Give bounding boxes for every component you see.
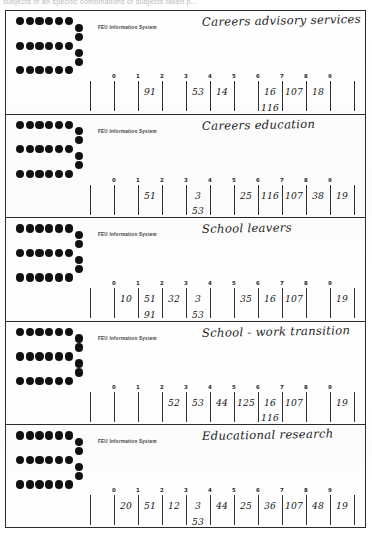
handwritten-value: 53 xyxy=(192,206,204,215)
scale-divider xyxy=(90,288,91,318)
handwritten-value: 116 xyxy=(261,413,279,422)
handwritten-value: 19 xyxy=(336,191,348,200)
scale-tick-label: 5 xyxy=(232,177,236,183)
scale-cell[interactable]: 36 xyxy=(264,496,276,526)
scale-divider xyxy=(234,288,235,318)
logo-dot xyxy=(35,170,43,178)
logo-dot xyxy=(75,136,83,144)
scale-cell[interactable]: 32 xyxy=(168,289,180,319)
logo-dot xyxy=(65,456,73,464)
scale-tick-label: 8 xyxy=(304,73,308,79)
scale-cell[interactable]: 19 xyxy=(336,496,348,526)
feu-dotted-e-logo xyxy=(16,121,84,183)
scale-cell[interactable]: 353 xyxy=(192,186,204,216)
handwritten-value: 25 xyxy=(240,501,252,510)
logo-dot xyxy=(45,66,53,74)
scale-tick-label: 2 xyxy=(160,280,164,286)
scale-cell[interactable]: 107 xyxy=(285,82,303,112)
scale-cell[interactable]: 107 xyxy=(285,393,303,423)
handwritten-value: 14 xyxy=(216,87,228,96)
logo-dot xyxy=(45,145,53,153)
handwritten-value: 25 xyxy=(240,191,252,200)
scale-cell[interactable]: 20 xyxy=(120,496,132,526)
scale-cell[interactable]: 51 xyxy=(144,186,156,216)
logo-dot xyxy=(35,17,43,25)
scale-cell[interactable]: 38 xyxy=(312,186,324,216)
scale-cell[interactable]: 116 xyxy=(261,186,279,216)
scale-cell[interactable]: 19 xyxy=(336,289,348,319)
scale-tick-label: 3 xyxy=(184,73,188,79)
scale-cell[interactable]: 25 xyxy=(240,186,252,216)
scale-cell[interactable]: 51 xyxy=(144,496,156,526)
handwritten-panel-title: School leavers xyxy=(202,220,292,236)
feu-dotted-e-logo xyxy=(16,224,84,286)
scale-cell[interactable]: 91 xyxy=(144,82,156,112)
scale-cell[interactable]: 107 xyxy=(285,496,303,526)
scale-tick-label: 3 xyxy=(184,487,188,493)
scale-cell[interactable]: 16 xyxy=(264,289,276,319)
scale-divider xyxy=(234,185,235,215)
scale-cell[interactable]: 25 xyxy=(240,496,252,526)
scale-cell[interactable]: 125 xyxy=(237,393,255,423)
handwritten-value: 53 xyxy=(192,398,204,407)
scale-cell[interactable]: 10 xyxy=(120,289,132,319)
printed-system-label: FEU Information System xyxy=(98,336,157,341)
logo-dot xyxy=(75,161,83,169)
logo-dot xyxy=(35,249,43,257)
scale-cell[interactable]: 12 xyxy=(168,496,180,526)
handwritten-panel-title: Careers advisory services xyxy=(202,12,361,29)
logo-dot xyxy=(16,224,24,232)
scale-tick-label: 5 xyxy=(232,280,236,286)
scale-cell[interactable]: 35 xyxy=(240,289,252,319)
scale-cell[interactable]: 53 xyxy=(192,82,204,112)
logo-dot xyxy=(65,328,73,336)
scale-cell[interactable]: 16116 xyxy=(261,393,279,423)
scale-cell[interactable]: 53 xyxy=(192,393,204,423)
scale-divider xyxy=(162,495,163,525)
handwritten-value: 38 xyxy=(312,191,324,200)
scale-cell[interactable]: 19 xyxy=(336,393,348,423)
logo-dot xyxy=(16,17,24,25)
scale-cell[interactable]: 107 xyxy=(285,289,303,319)
logo-dot xyxy=(75,265,83,273)
scale-cell[interactable]: 353 xyxy=(192,289,204,319)
logo-dot xyxy=(35,431,43,439)
logo-dot xyxy=(26,145,34,153)
logo-dot xyxy=(65,17,73,25)
form-panel: FEU Information SystemCareers education0… xyxy=(6,115,365,219)
form-panel: FEU Information SystemSchool - work tran… xyxy=(6,322,365,426)
scale-cell[interactable]: 44 xyxy=(216,496,228,526)
logo-dot xyxy=(16,42,24,50)
scale-cell[interactable]: 107 xyxy=(285,186,303,216)
scale-cell[interactable]: 14 xyxy=(216,82,228,112)
logo-dot xyxy=(75,24,83,32)
scale-tick-label: 9 xyxy=(328,177,332,183)
scale-cell[interactable]: 52 xyxy=(168,393,180,423)
numeric-scale: 01234567895253441251611610719 xyxy=(90,384,354,422)
scale-cell[interactable]: 18 xyxy=(312,82,324,112)
handwritten-value: 53 xyxy=(192,310,204,319)
logo-dot xyxy=(26,66,34,74)
scale-divider xyxy=(306,288,307,318)
logo-dot xyxy=(55,224,63,232)
logo-dot xyxy=(35,480,43,488)
scale-cell[interactable]: 353 xyxy=(192,496,204,526)
logo-dot xyxy=(55,121,63,129)
form-sheet: FEU Information SystemCareers advisory s… xyxy=(5,10,366,528)
scale-tick-label: 2 xyxy=(160,384,164,390)
scale-cell[interactable]: 44 xyxy=(216,393,228,423)
scale-cell[interactable]: 5191 xyxy=(144,289,156,319)
logo-dot xyxy=(55,273,63,281)
logo-dot xyxy=(65,145,73,153)
scale-cell[interactable]: 19 xyxy=(336,186,348,216)
scan-header-text: subjects of an specific combinations of … xyxy=(0,0,372,7)
scale-tick-label: 5 xyxy=(232,384,236,390)
scale-divider xyxy=(354,392,355,422)
logo-dot xyxy=(55,249,63,257)
logo-dot xyxy=(55,42,63,50)
scale-cell[interactable]: 16116 xyxy=(261,82,279,112)
handwritten-value: 44 xyxy=(216,501,228,510)
logo-dot xyxy=(75,463,83,471)
handwritten-value: 16 xyxy=(264,87,276,96)
scale-cell[interactable]: 48 xyxy=(312,496,324,526)
